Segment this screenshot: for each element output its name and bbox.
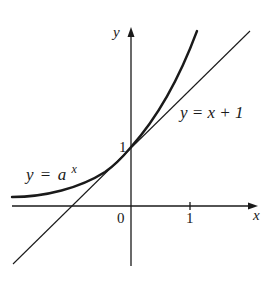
- x-axis-label: x: [252, 207, 260, 223]
- y-axis-label: y: [111, 24, 120, 40]
- y-axis-arrow-icon: [128, 27, 135, 37]
- origin-label: 0: [117, 210, 125, 226]
- y-tick-label: 1: [119, 139, 127, 155]
- exponential-tangent-diagram: y x 0 1 1 y = x + 1 y = a x: [0, 0, 275, 288]
- x-axis: [12, 202, 258, 210]
- x-tick-label: 1: [186, 210, 194, 226]
- exponential-curve: [12, 31, 197, 197]
- exponential-curve-label: y = a x: [24, 162, 77, 184]
- diagram-canvas: y x 0 1 1 y = x + 1 y = a x: [0, 0, 275, 288]
- tangent-line-label: y = x + 1: [178, 103, 244, 122]
